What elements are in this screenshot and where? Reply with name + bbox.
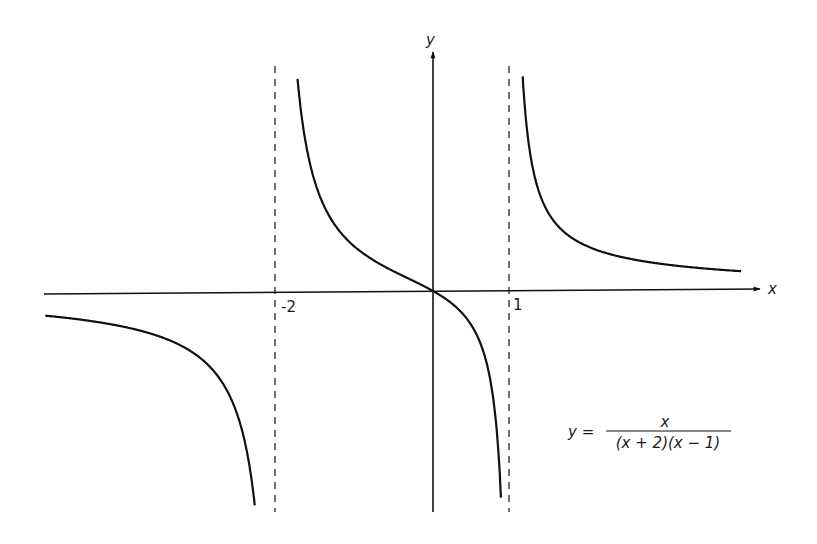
curve-branch-middle xyxy=(298,79,501,498)
y-axis-label: y xyxy=(425,31,436,49)
tick-label-1: 1 xyxy=(513,296,523,314)
x-axis xyxy=(44,289,760,294)
curve-branch-left xyxy=(45,316,254,506)
tick-label-neg2: -2 xyxy=(281,298,296,316)
equation-lhs: y = xyxy=(567,423,594,441)
equation-annotation: y = x (x + 2)(x − 1) xyxy=(567,413,731,452)
function-graph: y x -2 1 y = x (x + 2)(x − 1) xyxy=(0,0,817,544)
x-axis-label: x xyxy=(767,280,777,298)
equation-denominator: (x + 2)(x − 1) xyxy=(616,434,720,452)
equation-numerator: x xyxy=(660,413,670,431)
curve-branch-right xyxy=(523,76,741,271)
